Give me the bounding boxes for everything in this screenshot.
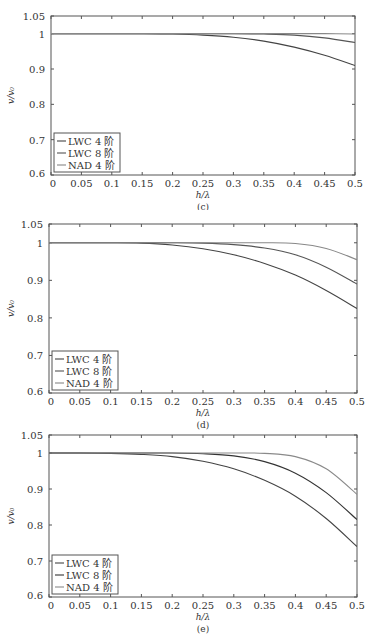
y-axis-label: v/v₀ <box>6 507 16 524</box>
y-tick-label: 0.8 <box>27 520 43 531</box>
chart-e: 00.050.10.150.20.250.30.350.40.450.50.60… <box>0 0 374 634</box>
x-tick-label: 0.45 <box>315 600 337 611</box>
figure-caption: (e) <box>197 624 209 634</box>
y-tick-label: 0.9 <box>27 484 43 495</box>
x-tick-label: 0.2 <box>164 600 180 611</box>
x-tick-label: 0 <box>48 600 54 611</box>
y-tick-label: 1 <box>37 448 43 459</box>
legend-label: LWC 8 阶 <box>66 569 112 581</box>
x-tick-label: 0.1 <box>103 600 119 611</box>
x-tick-label: 0.5 <box>349 600 365 611</box>
legend: LWC 4 阶LWC 8 阶NAD 4 阶 <box>52 555 118 594</box>
x-tick-label: 0.25 <box>192 600 214 611</box>
legend-label: NAD 4 阶 <box>66 581 113 593</box>
series-line <box>49 453 357 547</box>
y-tick-label: 0.6 <box>27 590 43 601</box>
x-tick-label: 0.05 <box>69 600 91 611</box>
x-tick-label: 0.4 <box>287 600 303 611</box>
series-line <box>49 453 357 520</box>
y-tick-label: 1.05 <box>21 430 43 441</box>
x-axis-label: h/λ <box>196 612 211 622</box>
series-line <box>49 453 357 494</box>
legend-label: LWC 4 阶 <box>66 557 112 569</box>
x-tick-label: 0.15 <box>130 600 152 611</box>
chart-panel-e: 00.050.10.150.20.250.30.350.40.450.50.60… <box>0 0 374 634</box>
x-tick-label: 0.35 <box>253 600 275 611</box>
x-tick-label: 0.3 <box>226 600 242 611</box>
y-tick-label: 0.7 <box>27 556 43 567</box>
